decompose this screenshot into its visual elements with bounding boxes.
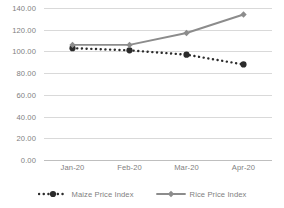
axis-baseline	[44, 160, 272, 161]
data-point-marker	[126, 47, 132, 53]
series-rice-price-index	[69, 11, 246, 48]
x-axis-tick-label: Feb-20	[117, 163, 142, 172]
x-axis-tick-labels: Jan-20Feb-20Mar-20Apr-20	[44, 163, 272, 177]
y-axis-tick-label: 0.00	[21, 156, 36, 165]
legend-label: Maize Price Index	[72, 190, 134, 199]
legend-line-sample	[38, 189, 68, 199]
data-point-marker	[240, 11, 246, 17]
x-axis-tick-label: Apr-20	[232, 163, 255, 172]
series-layer	[44, 8, 272, 160]
series-line	[73, 15, 244, 45]
line-chart: 140.00120.00100.0080.0060.0040.0020.000.…	[0, 0, 284, 208]
plot-area	[44, 8, 272, 160]
x-axis-tick-label: Mar-20	[174, 163, 199, 172]
data-point-marker	[183, 30, 189, 36]
legend-label: Rice Price Index	[190, 190, 247, 199]
y-axis-tick-label: 80.00	[16, 69, 36, 78]
data-point-marker	[240, 61, 246, 67]
y-axis-tick-label: 20.00	[16, 134, 36, 143]
y-axis-tick-label: 100.00	[12, 47, 36, 56]
series-maize-price-index	[69, 45, 246, 67]
y-axis-tick-labels: 140.00120.00100.0080.0060.0040.0020.000.…	[0, 8, 42, 160]
data-point-marker	[126, 42, 132, 48]
legend-item[interactable]: Rice Price Index	[156, 189, 247, 199]
data-point-marker	[183, 52, 189, 58]
y-axis-tick-label: 40.00	[16, 112, 36, 121]
chart-legend: Maize Price IndexRice Price Index	[0, 186, 284, 202]
x-axis-tick-label: Jan-20	[61, 163, 85, 172]
y-axis-tick-label: 120.00	[12, 25, 36, 34]
y-axis-tick-label: 60.00	[16, 90, 36, 99]
legend-item[interactable]: Maize Price Index	[38, 189, 134, 199]
y-axis-tick-label: 140.00	[12, 4, 36, 13]
series-line	[73, 48, 244, 64]
legend-line-sample	[156, 189, 186, 199]
